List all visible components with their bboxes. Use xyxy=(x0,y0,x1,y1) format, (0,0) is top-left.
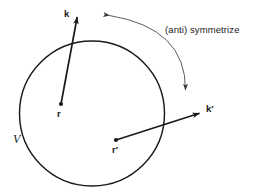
figure-container: k k′ r r′ V (anti) symmetrize xyxy=(0,0,258,193)
annotation-label: (anti) symmetrize xyxy=(165,25,240,35)
point-r-dot xyxy=(59,102,63,106)
vector-kprime-label: k′ xyxy=(206,104,214,114)
vector-k-label: k xyxy=(64,9,69,19)
point-r-label: r xyxy=(57,109,61,119)
vector-k-line xyxy=(61,17,77,104)
point-rprime-dot xyxy=(114,138,118,142)
volume-label: V xyxy=(13,133,20,145)
vector-kprime-line xyxy=(116,113,200,140)
volume-circle xyxy=(20,41,165,186)
point-rprime-label: r′ xyxy=(112,145,118,155)
